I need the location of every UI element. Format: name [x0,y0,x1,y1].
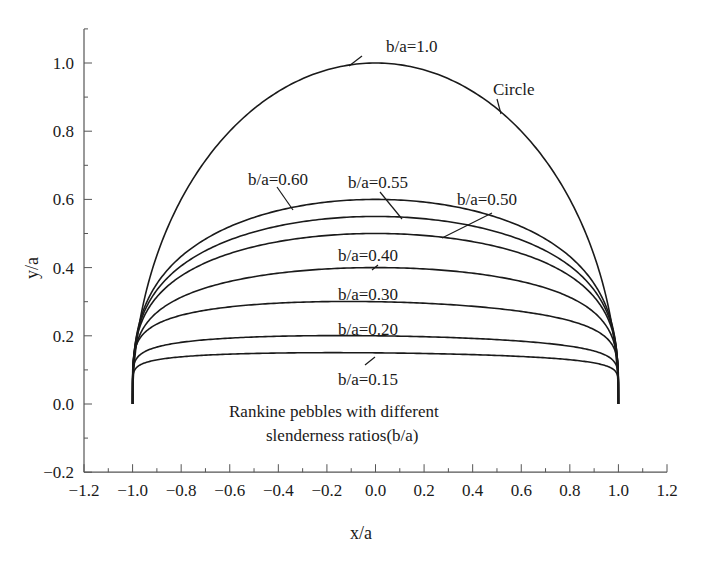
label-ba-0-40: b/a=0.40 [338,246,398,265]
y-tick-label: 0.6 [53,190,74,209]
x-tick-label: −1.2 [69,481,100,500]
x-axis-title: x/a [350,523,372,543]
leader-ba055 [380,192,402,219]
y-tick-label: −0.2 [43,463,74,482]
leader-ba015 [365,357,375,365]
curves [133,63,619,404]
y-axis-title: y/a [22,257,42,279]
x-tick-label: −0.2 [311,481,342,500]
x-tick-label: −0.6 [214,481,245,500]
y-tick-label: 0.2 [53,327,74,346]
chart-canvas: −1.2−1.0−0.8−0.6−0.4−0.20.00.20.40.60.81… [0,0,701,567]
y-tick-label: 1.0 [53,54,74,73]
annotation-line-2: slenderness ratios(b/a) [266,426,418,445]
leader-ba060 [277,187,293,210]
annotation-line-1: Rankine pebbles with different [229,402,439,421]
leader-lines [277,56,501,365]
label-ba-1-0: b/a=1.0 [386,37,438,56]
x-tick-label: −1.0 [117,481,148,500]
x-tick-label: 0.6 [511,481,532,500]
label-ba-0-30: b/a=0.30 [338,285,398,304]
label-ba-0-20: b/a=0.20 [338,320,398,339]
x-tick-label: 0.2 [413,481,434,500]
x-tick-label: 0.8 [559,481,580,500]
y-tick-label: 0.4 [53,259,75,278]
leader-ba050 [442,213,492,238]
label-ba-0-15: b/a=0.15 [338,370,398,389]
x-tick-label: 0.4 [462,481,484,500]
x-tick-label: −0.4 [263,481,294,500]
y-tick-label: 0.0 [53,395,74,414]
x-tick-label: −0.8 [166,481,197,500]
label-ba-0-50: b/a=0.50 [457,190,517,209]
label-ba-0-60: b/a=0.60 [248,170,308,189]
leader-circle [497,99,501,114]
x-tick-label: 0.0 [365,481,386,500]
label-circle: Circle [493,80,535,99]
label-ba-0-55: b/a=0.55 [348,173,408,192]
x-tick-label: 1.2 [656,481,677,500]
y-tick-label: 0.8 [53,122,74,141]
rankine-pebble-chart: −1.2−1.0−0.8−0.6−0.4−0.20.00.20.40.60.81… [0,0,701,567]
x-tick-label: 1.0 [608,481,629,500]
